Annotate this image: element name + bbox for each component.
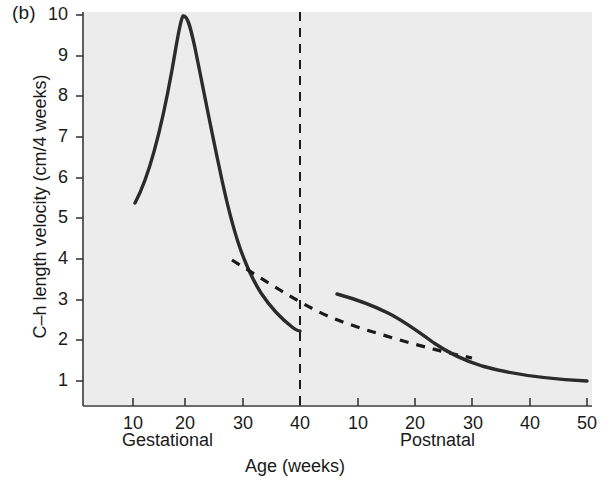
plot-canvas	[0, 0, 614, 489]
y-axis-ticks	[76, 15, 83, 381]
plot-background	[83, 12, 592, 405]
figure-panel-b: (b) C–h length velocity (cm/4 weeks) Age…	[0, 0, 614, 489]
